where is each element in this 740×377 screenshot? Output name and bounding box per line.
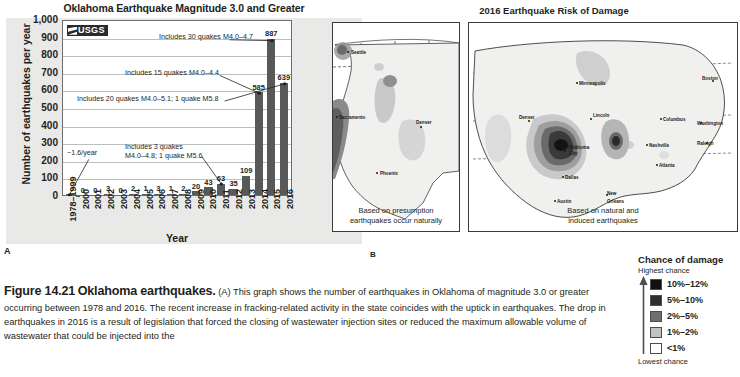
map-right-caption-line1: Based on natural and [567, 206, 638, 215]
legend-label: 5%–10% [667, 295, 703, 305]
legend-label: 10%–12% [667, 279, 708, 289]
map-left-caption-line1: Based on presumption [358, 206, 433, 215]
panel-a-chart: Oklahoma Earthquake Magnitude 3.0 and Gr… [0, 0, 368, 255]
svg-text:Minneapolis: Minneapolis [579, 81, 606, 86]
map-right-caption: Based on natural and induced earthquakes [469, 206, 737, 225]
panel-label-a: A [4, 246, 11, 256]
x-axis-title: Year [62, 232, 292, 244]
map-left-caption: Based on presumption earthquakes occur n… [333, 206, 459, 225]
y-tick-label: 900 [41, 33, 58, 43]
legend-swatch [650, 295, 662, 306]
svg-text:Sacramento: Sacramento [339, 115, 365, 120]
map-legend: Chance of damage Highest chance 10%–12%5… [636, 254, 740, 377]
y-tick-label: 200 [41, 156, 58, 166]
svg-text:Nashville: Nashville [649, 143, 670, 148]
svg-text:Phoenix: Phoenix [380, 171, 398, 176]
legend-item: 10%–12% [650, 276, 740, 292]
legend-swatch [650, 311, 662, 322]
map-natural-and-induced: Minneapolis Boston Lincoln Columbus Wash… [468, 22, 738, 232]
annotation-anchor-dot [220, 182, 223, 185]
chart-title: Oklahoma Earthquake Magnitude 3.0 and Gr… [0, 2, 368, 14]
legend-item: 5%–10% [650, 292, 740, 308]
map-right-graphic: Minneapolis Boston Lincoln Columbus Wash… [469, 23, 738, 232]
legend-title: Chance of damage [638, 254, 740, 265]
legend-label: 2%–5% [667, 311, 698, 321]
svg-text:New: New [607, 191, 617, 196]
legend-item: 2%–5% [650, 308, 740, 324]
y-tick-label: 600 [41, 85, 58, 95]
legend-swatch [650, 327, 662, 338]
legend-item: <1% [650, 340, 740, 356]
svg-text:Atlanta: Atlanta [659, 163, 675, 168]
legend-highest-label: Highest chance [638, 266, 740, 275]
map-right-caption-line2: induced earthquakes [568, 216, 638, 225]
figure-number: Figure 14.21 [4, 284, 75, 298]
annotation-leader [202, 156, 222, 184]
legend-rows: 10%–12%5%–10%2%–5%1%–2%<1% [636, 276, 740, 356]
y-tick-label: 800 [41, 50, 58, 60]
plot-area: USGS 00302131220436335109585887639 ~1.6/… [62, 20, 292, 196]
svg-text:Raleigh: Raleigh [697, 141, 714, 146]
svg-text:Seattle: Seattle [351, 50, 367, 55]
annotation-leader [225, 84, 285, 101]
legend-label: 1%–2% [667, 327, 698, 337]
legend-lowest-label: Lowest chance [638, 357, 740, 366]
annotation-leader-lines [63, 21, 291, 195]
y-tick-label: 100 [41, 173, 58, 183]
svg-text:Washington: Washington [697, 121, 723, 126]
panel-b-maps: 2016 Earthquake Risk of Damage [368, 0, 740, 255]
annotation-anchor-dot [283, 82, 286, 85]
svg-text:Lincoln: Lincoln [593, 113, 610, 118]
maps-title: 2016 Earthquake Risk of Damage [368, 5, 740, 16]
figure-title: Oklahoma earthquakes. [78, 284, 216, 298]
y-tick-label: 500 [41, 103, 58, 113]
y-tick-label: 300 [41, 138, 58, 148]
y-tick-label: 400 [41, 121, 58, 131]
map-natural-only: Seattle Sacramento Denver Phoenix Based … [332, 22, 460, 232]
legend-label: <1% [667, 343, 685, 353]
x-tick-label: 2016 [285, 189, 295, 209]
legend-swatch [650, 279, 662, 290]
y-tick-label: 700 [41, 68, 58, 78]
svg-text:Denver: Denver [416, 120, 432, 125]
annotation-anchor-dot [270, 39, 273, 42]
svg-text:Denver: Denver [519, 115, 535, 120]
y-tick-label: 0 [52, 191, 58, 201]
panel-label-b: B [370, 250, 376, 259]
svg-text:Dallas: Dallas [565, 175, 579, 180]
annotation-leader [220, 75, 260, 93]
svg-text:Austin: Austin [557, 199, 571, 204]
svg-text:Orleans: Orleans [607, 199, 625, 204]
legend-item: 1%–2% [650, 324, 740, 340]
annotation-anchor-dot [258, 92, 261, 95]
annotation-leader [230, 40, 272, 41]
y-axis-ticks: 1,0009008007006005004003002001000 [18, 20, 58, 196]
svg-text:Oklahoma: Oklahoma [567, 145, 590, 150]
figure-caption: Figure 14.21 Oklahoma earthquakes. (A) T… [4, 282, 626, 344]
y-tick-label: 1,000 [33, 15, 58, 25]
svg-text:Boston: Boston [702, 76, 718, 81]
legend-swatch [650, 343, 662, 354]
svg-text:City: City [569, 151, 578, 156]
map-left-graphic: Seattle Sacramento Denver Phoenix [333, 23, 460, 232]
svg-text:Columbus: Columbus [663, 117, 686, 122]
legend-gradient-arrow-icon [639, 276, 648, 356]
map-left-caption-line2: earthquakes occur naturally [350, 216, 442, 225]
